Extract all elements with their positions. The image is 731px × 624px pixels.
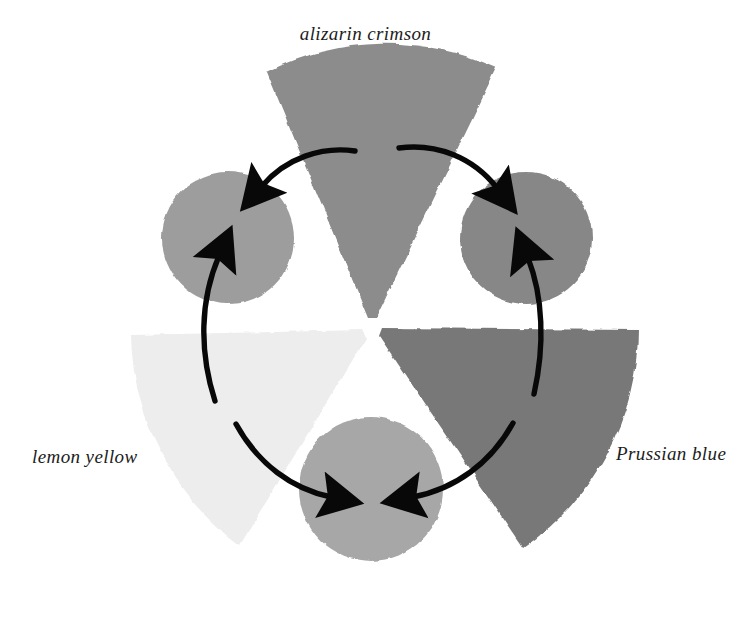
label-lemon-yellow: lemon yellow [32, 445, 232, 469]
wedge-alizarin-crimson [267, 44, 497, 318]
mix-circle-upper-right [460, 172, 592, 304]
mix-circle-bottom [299, 417, 443, 561]
color-wheel-graphic [0, 0, 731, 624]
label-prussian-blue: Prussian blue [616, 442, 731, 466]
label-alizarin-crimson: alizarin crimson [0, 22, 731, 46]
mix-circle-upper-left [162, 172, 294, 304]
color-mixing-diagram: alizarin crimson lemon yellow Prussian b… [0, 0, 731, 624]
